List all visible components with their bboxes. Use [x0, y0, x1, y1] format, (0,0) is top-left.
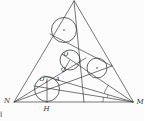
geometry-figure: N M H O O 1 A	[0, 0, 144, 121]
label-center-o1: O	[40, 75, 45, 82]
label-point-a: A	[55, 75, 61, 82]
labels: N M H O O 1 A	[3, 50, 144, 113]
angle-arc-3	[104, 85, 108, 93]
triangle-diagram-svg: N M H O O 1 A	[0, 0, 144, 121]
label-foot-h: H	[43, 105, 51, 113]
label-center-o1-subscript: 1	[45, 79, 47, 84]
label-vertex-n: N	[3, 97, 11, 105]
cevian-lines	[14, 1, 133, 102]
circle-top-center-dot	[63, 29, 65, 31]
label-center-o: O	[64, 50, 69, 57]
angle-arc-2	[107, 95, 108, 98]
triangle-outline	[14, 1, 133, 102]
label-vertex-m: M	[136, 98, 145, 106]
circle-right-center-dot	[96, 67, 98, 69]
line-n-through-a	[14, 58, 86, 102]
